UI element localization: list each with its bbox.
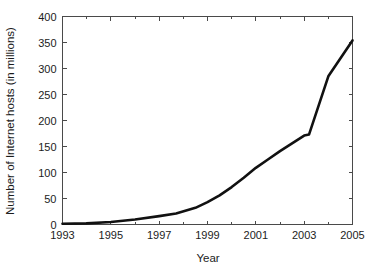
y-tick-label-200: 200 <box>38 115 56 127</box>
x-axis-tick-labels: 1993199519971999200120032005 <box>50 229 364 241</box>
x-tick-label-2005: 2005 <box>340 229 364 241</box>
y-tick-label-150: 150 <box>38 141 56 153</box>
y-axis-tick-marks <box>63 17 353 225</box>
x-tick-label-2003: 2003 <box>292 229 316 241</box>
y-axis-title: Number of Internet hosts (in millions) <box>4 27 16 215</box>
x-tick-label-1993: 1993 <box>50 229 74 241</box>
x-tick-label-2001: 2001 <box>244 229 268 241</box>
y-tick-label-350: 350 <box>38 37 56 49</box>
data-series-group <box>63 40 353 223</box>
x-tick-label-1999: 1999 <box>195 229 219 241</box>
data-line-internet-hosts <box>63 40 353 223</box>
y-tick-label-300: 300 <box>38 63 56 75</box>
x-tick-label-1995: 1995 <box>99 229 123 241</box>
x-tick-label-1997: 1997 <box>147 229 171 241</box>
y-tick-label-400: 400 <box>38 11 56 23</box>
plot-frame <box>63 17 353 225</box>
y-tick-label-100: 100 <box>38 167 56 179</box>
chart-container: 050100150200250300350400 199319951997199… <box>0 0 376 267</box>
y-axis-tick-labels: 050100150200250300350400 <box>38 11 56 231</box>
axis-frame <box>63 17 353 225</box>
x-axis-minor-tick-marks <box>87 17 329 225</box>
x-axis-title: Year <box>196 252 219 264</box>
x-axis-tick-marks <box>63 17 353 225</box>
internet-hosts-line-chart: 050100150200250300350400 199319951997199… <box>0 0 376 267</box>
y-tick-label-250: 250 <box>38 89 56 101</box>
y-tick-label-50: 50 <box>44 193 56 205</box>
